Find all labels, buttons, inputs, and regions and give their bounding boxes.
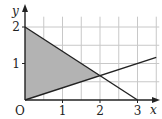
y-axis-label: y (11, 4, 19, 18)
diagram-svg: y x O 12312 (0, 0, 162, 119)
y-axis-arrow-icon (22, 4, 28, 12)
y-tick-label: 2 (12, 20, 20, 34)
origin-label: O (15, 104, 25, 118)
x-tick-label: 1 (59, 104, 67, 118)
x-axis-label: x (150, 103, 157, 117)
x-tick-label: 2 (96, 104, 104, 118)
y-tick-label: 1 (12, 57, 20, 71)
x-tick-label: 3 (134, 104, 142, 118)
